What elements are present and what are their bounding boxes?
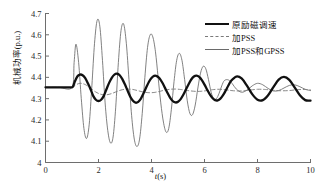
y-tick-label: 4.3 [31, 94, 42, 104]
legend-item-1: 加PSS [205, 30, 317, 43]
y-tick-label: 4.2 [31, 115, 42, 125]
chart-figure: 44.14.24.34.44.54.64.70246810 机械功率(p.u.)… [0, 0, 321, 192]
chart-legend: 原励磁调速加PSS加PSS和GPSS [205, 17, 317, 56]
y-tick-label: 4.7 [31, 9, 42, 19]
y-tick-label: 4 [37, 158, 42, 168]
y-tick-label: 4.4 [31, 72, 42, 82]
y-tick-label: 4.5 [31, 51, 42, 61]
legend-swatch-icon-1 [205, 32, 229, 42]
legend-line-sample [205, 23, 229, 25]
x-axis-title: t(s) [0, 171, 321, 181]
legend-item-2: 加PSS和GPSS [205, 43, 317, 56]
y-tick-label: 4.6 [31, 30, 42, 40]
y-tick-label: 4.1 [31, 136, 42, 146]
legend-swatch-icon-0 [205, 19, 229, 29]
legend-label-1: 加PSS [232, 31, 255, 43]
y-axis-title: 机械功率(p.u.) [10, 8, 22, 108]
legend-label-0: 原励磁调速 [232, 18, 277, 30]
legend-swatch-icon-2 [205, 45, 229, 55]
series-line-0 [46, 74, 311, 103]
legend-label-2: 加PSS和GPSS [232, 44, 285, 56]
legend-line-sample [205, 36, 229, 37]
legend-item-0: 原励磁调速 [205, 17, 317, 30]
legend-line-sample [205, 49, 229, 50]
